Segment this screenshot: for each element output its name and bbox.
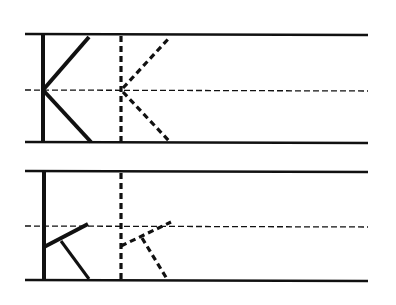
uppercase-row	[25, 34, 368, 143]
midline-dashed	[25, 90, 368, 91]
model-letter-uppercase-k	[43, 34, 91, 142]
top-line	[25, 171, 368, 172]
baseline	[25, 280, 368, 281]
midline-dashed	[25, 226, 368, 227]
top-line	[25, 34, 368, 35]
baseline	[25, 142, 368, 143]
handwriting-worksheet	[0, 0, 396, 305]
lowercase-row	[25, 171, 368, 281]
trace-letter-uppercase-k	[121, 36, 170, 142]
